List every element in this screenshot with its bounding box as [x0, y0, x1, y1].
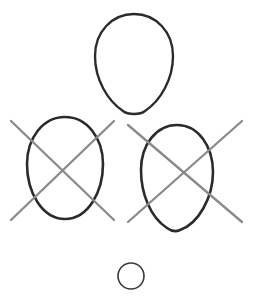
figure-svg: [0, 0, 263, 299]
drawing-canvas: [0, 0, 263, 299]
